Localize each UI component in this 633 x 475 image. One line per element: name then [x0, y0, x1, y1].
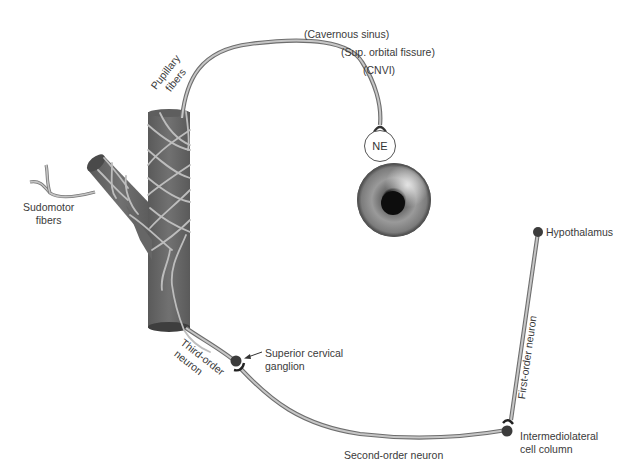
label-hypothalamus: Hypothalamus [546, 226, 613, 239]
label-cnvi: (CNVI) [363, 64, 395, 77]
label-sup-orbital-fissure: (Sup. orbital fissure) [341, 46, 435, 59]
superior-cervical-ganglion [231, 356, 245, 371]
label-sudomotor-fibers: Sudomotor fibers [23, 201, 74, 227]
eye-iris [357, 163, 431, 237]
label-intermediolateral-cell-column: Intermediolateral cell column [520, 430, 598, 456]
label-cavernous-sinus: (Cavernous sinus) [304, 28, 389, 41]
ne-neurotransmitter-label: NE [364, 130, 396, 162]
intermediolateral-cell-column [502, 420, 514, 436]
second-order-neuron [240, 368, 507, 437]
hypothalamus-neuron [533, 227, 543, 237]
label-superior-cervical-ganglion: Superior cervical ganglion [265, 347, 343, 373]
oculosympathetic-diagram: (Cavernous sinus) (Sup. orbital fissure)… [0, 0, 633, 475]
ganglion-pointer-arrow [244, 352, 262, 359]
label-second-order-neuron: Second-order neuron [344, 449, 443, 462]
sudomotor-fibers [30, 165, 95, 197]
